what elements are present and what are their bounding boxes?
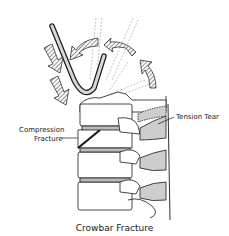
tension-tear-label: Tension Tear [176, 113, 219, 121]
compression-fracture-label-line2: Fracture [34, 135, 63, 143]
crowbar-motion-lines [90, 18, 150, 98]
spine [78, 92, 170, 220]
figure-caption: Crowbar Fracture [0, 223, 229, 233]
compression-fracture-label-line1: Compression [19, 126, 64, 134]
